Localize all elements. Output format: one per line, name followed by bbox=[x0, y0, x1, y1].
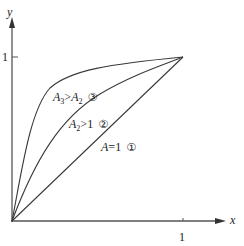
y-axis-label: y bbox=[7, 6, 12, 18]
curve-1-label: A=1① bbox=[101, 141, 136, 153]
y-tick-label: 1 bbox=[2, 51, 8, 63]
curve-2-label: A2>1② bbox=[69, 118, 108, 133]
curve-1-line bbox=[12, 57, 183, 221]
marker-1-icon: ① bbox=[126, 141, 136, 154]
marker-2-icon: ② bbox=[98, 118, 108, 131]
marker-3-icon: ③ bbox=[87, 91, 97, 104]
x-tick-label: 1 bbox=[179, 231, 185, 243]
diagram-svg bbox=[0, 0, 244, 246]
x-axis-arrow-icon bbox=[215, 218, 226, 224]
x-axis-label: x bbox=[230, 214, 235, 226]
curve-3-label: A3>A2③ bbox=[53, 91, 97, 106]
diagram-canvas: y x 1 1 A3>A2③ A2>1② A=1① bbox=[0, 0, 244, 246]
